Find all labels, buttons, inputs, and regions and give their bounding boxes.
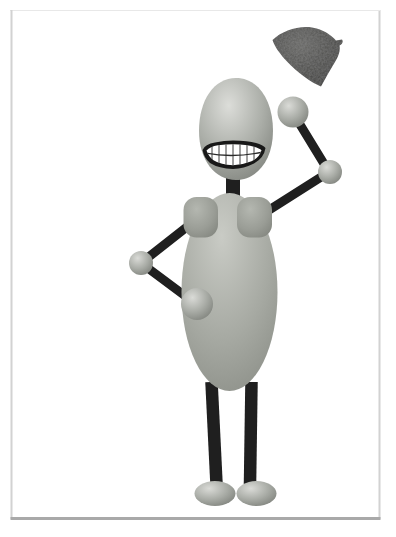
- beret-hat-icon: [273, 27, 343, 86]
- right-leg: [250, 382, 252, 484]
- left-leg: [212, 382, 217, 484]
- right-hand-ball: [278, 97, 309, 128]
- right-elbow-ball: [318, 160, 342, 184]
- right-foot: [237, 481, 277, 506]
- robot-illustration: Cartoon robot tossing hat: [0, 0, 396, 537]
- leg-sticks: [212, 382, 252, 484]
- left-hand-ball: [181, 288, 213, 320]
- illustration-canvas: Cartoon robot tossing hat: [0, 0, 396, 537]
- right-shoulder-pad: [237, 197, 272, 238]
- left-elbow-ball: [129, 251, 153, 275]
- left-foot: [195, 481, 236, 506]
- left-shoulder-pad: [184, 197, 219, 238]
